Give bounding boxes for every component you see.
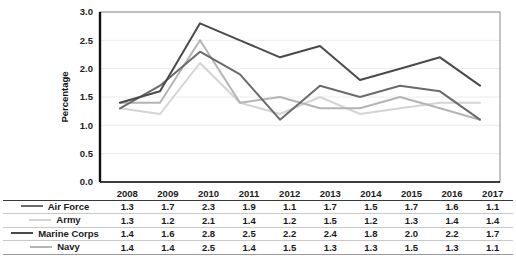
table-corner-header <box>3 188 107 201</box>
table-column-header-2015: 2015 <box>391 188 432 201</box>
table-cell: 1.2 <box>148 214 189 227</box>
table-column-header-2014: 2014 <box>351 188 392 201</box>
y-axis-tick-label: 1.5 <box>80 91 94 102</box>
data-series-lines <box>120 23 480 119</box>
series-label: Army <box>56 215 80 226</box>
legend-swatch-icon <box>11 232 33 234</box>
table-cell: 1.1 <box>472 241 513 254</box>
table-cell: 1.4 <box>107 227 148 240</box>
legend-entry-air-force: Air Force <box>3 201 107 214</box>
chart-canvas: 0.00.51.01.52.02.53.0 Percentage <box>0 0 516 190</box>
table-cell: 1.4 <box>229 241 270 254</box>
table-cell: 2.1 <box>188 214 229 227</box>
table-cell: 2.2 <box>269 227 310 240</box>
table-cell: 2.5 <box>229 227 270 240</box>
table-column-header-2012: 2012 <box>269 188 310 201</box>
y-axis-tick-label: 3.0 <box>80 6 93 17</box>
y-axis-tick-label: 0.0 <box>80 176 93 187</box>
table-cell: 1.3 <box>391 214 432 227</box>
table-cell: 1.5 <box>351 201 392 214</box>
table-cell: 1.5 <box>269 241 310 254</box>
legend-entry-marine-corps: Marine Corps <box>3 227 107 240</box>
table-cell: 1.8 <box>351 227 392 240</box>
table-cell: 1.4 <box>107 241 148 254</box>
table-cell: 1.2 <box>269 214 310 227</box>
table-cell: 1.4 <box>472 214 513 227</box>
legend-swatch-icon <box>29 219 51 221</box>
table-header-row: 2008200920102011201220132014201520162017 <box>3 188 513 201</box>
legend-entry-navy: Navy <box>3 241 107 254</box>
legend-swatch-icon <box>30 246 52 248</box>
table-row: Marine Corps1.41.62.82.52.22.41.82.02.21… <box>3 227 513 240</box>
table-column-header-2017: 2017 <box>472 188 513 201</box>
table-column-header-2008: 2008 <box>107 188 148 201</box>
table-cell: 1.3 <box>107 201 148 214</box>
y-axis-title-text: Percentage <box>59 71 70 122</box>
table-column-header-2010: 2010 <box>188 188 229 201</box>
y-axis-tick-label: 2.0 <box>80 63 93 74</box>
series-label: Marine Corps <box>38 228 99 239</box>
table-cell: 1.3 <box>351 241 392 254</box>
table-body: Air Force1.31.72.31.91.11.71.51.71.61.1A… <box>3 201 513 255</box>
table-cell: 1.1 <box>269 201 310 214</box>
table-row: Navy1.41.42.51.41.51.31.31.51.31.1 <box>3 241 513 254</box>
chart-with-data-table: 0.00.51.01.52.02.53.0 Percentage 2008200… <box>0 0 516 260</box>
table-column-header-2013: 2013 <box>310 188 351 201</box>
series-line-marine-corps <box>120 23 480 102</box>
table-cell: 1.4 <box>229 214 270 227</box>
table-column-header-2009: 2009 <box>148 188 189 201</box>
table-cell: 1.7 <box>310 201 351 214</box>
table-cell: 1.3 <box>432 241 473 254</box>
y-axis-tick-labels: 0.00.51.01.52.02.53.0 <box>80 6 94 187</box>
series-label: Navy <box>57 242 80 253</box>
line-chart: 0.00.51.01.52.02.53.0 Percentage <box>0 0 516 190</box>
table-cell: 2.8 <box>188 227 229 240</box>
table-cell: 1.6 <box>148 227 189 240</box>
series-label: Air Force <box>48 201 90 212</box>
table-cell: 1.7 <box>472 227 513 240</box>
table-column-header-2016: 2016 <box>432 188 473 201</box>
table-cell: 2.2 <box>432 227 473 240</box>
table-cell: 2.0 <box>391 227 432 240</box>
y-axis-tick-label: 1.0 <box>80 120 93 131</box>
y-axis-tick-label: 0.5 <box>80 148 94 159</box>
table-cell: 1.5 <box>391 241 432 254</box>
table-row: Air Force1.31.72.31.91.11.71.51.71.61.1 <box>3 201 513 214</box>
legend-entry-army: Army <box>3 214 107 227</box>
table-cell: 1.7 <box>148 201 189 214</box>
data-table-region: 2008200920102011201220132014201520162017… <box>0 188 516 260</box>
table-cell: 1.9 <box>229 201 270 214</box>
table-cell: 1.6 <box>432 201 473 214</box>
table-cell: 2.3 <box>188 201 229 214</box>
gridlines-group <box>100 12 500 154</box>
table-cell: 2.4 <box>310 227 351 240</box>
y-axis-tick-label: 2.5 <box>80 35 94 46</box>
legend-swatch-icon <box>21 205 43 207</box>
table-cell: 1.4 <box>148 241 189 254</box>
table-cell: 2.5 <box>188 241 229 254</box>
table-cell: 1.3 <box>310 241 351 254</box>
table-cell: 1.7 <box>391 201 432 214</box>
table-cell: 1.1 <box>472 201 513 214</box>
table-cell: 1.5 <box>310 214 351 227</box>
table-head: 2008200920102011201220132014201520162017 <box>3 188 513 201</box>
y-axis-title: Percentage <box>59 71 70 122</box>
table-cell: 1.3 <box>107 214 148 227</box>
table-column-header-2011: 2011 <box>229 188 270 201</box>
data-table: 2008200920102011201220132014201520162017… <box>3 188 513 255</box>
table-cell: 1.4 <box>432 214 473 227</box>
table-row: Army1.31.22.11.41.21.51.21.31.41.4 <box>3 214 513 227</box>
table-cell: 1.2 <box>351 214 392 227</box>
